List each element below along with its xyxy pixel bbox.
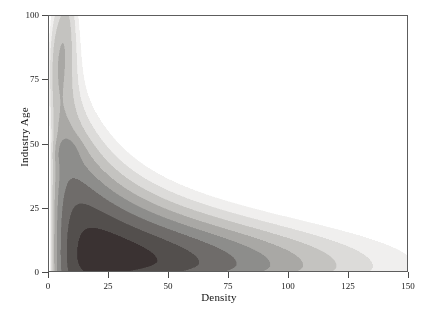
plot-area — [48, 15, 408, 272]
x-tick-label: 0 — [28, 282, 68, 291]
contour-density-canvas — [49, 16, 407, 271]
x-tick-mark — [168, 272, 169, 278]
y-tick-label: 0 — [35, 268, 40, 277]
x-tick-mark — [348, 272, 349, 278]
x-tick-label: 100 — [268, 282, 308, 291]
y-tick-mark — [42, 272, 48, 273]
x-tick-label: 25 — [88, 282, 128, 291]
x-axis-title: Density — [0, 291, 438, 303]
x-tick-mark — [228, 272, 229, 278]
contour-plot-figure: 0255075100 0255075100125150 Density Indu… — [0, 0, 438, 312]
y-tick-label: 100 — [26, 11, 40, 20]
y-tick-label: 75 — [30, 75, 39, 84]
y-tick-label: 50 — [30, 140, 39, 149]
y-axis-title: Industry Age — [18, 57, 30, 217]
y-tick-label: 25 — [30, 204, 39, 213]
x-tick-mark — [48, 272, 49, 278]
x-tick-label: 50 — [148, 282, 188, 291]
x-tick-label: 75 — [208, 282, 248, 291]
x-tick-mark — [108, 272, 109, 278]
x-tick-mark — [288, 272, 289, 278]
x-tick-label: 150 — [388, 282, 428, 291]
x-tick-label: 125 — [328, 282, 368, 291]
x-tick-mark — [408, 272, 409, 278]
